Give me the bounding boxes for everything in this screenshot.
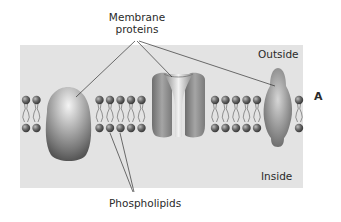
label-membrane-proteins: Membrane proteins <box>108 11 166 35</box>
label-phospholipids: Phospholipids <box>109 197 181 209</box>
protein-channel <box>152 73 205 138</box>
protein-left <box>46 87 91 161</box>
label-membrane-proteins-line1: Membrane <box>108 11 166 23</box>
label-outside: Outside <box>258 48 299 60</box>
panel-letter: A <box>314 91 323 103</box>
label-membrane-proteins-line2: proteins <box>108 23 166 35</box>
membrane-diagram <box>0 0 341 222</box>
label-inside: Inside <box>261 170 292 182</box>
